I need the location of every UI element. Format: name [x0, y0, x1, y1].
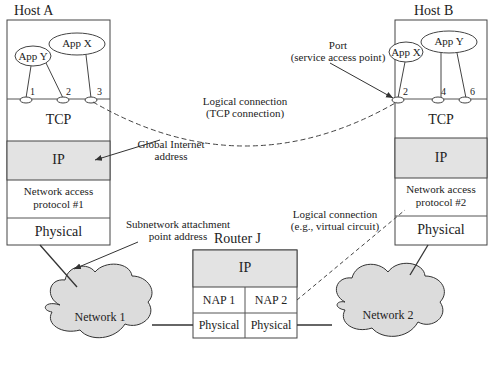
host-b-port-4: 4	[441, 86, 446, 98]
host-b-app-y-label: App Y	[429, 35, 469, 48]
host-a-port-1: 1	[30, 86, 35, 98]
network-1-label: Network 1	[70, 311, 130, 325]
router-nap1: NAP 1	[193, 294, 245, 308]
host-a-tcp-layer: TCP	[7, 112, 110, 128]
tcp-connection-label-line2: (TCP connection)	[195, 107, 295, 120]
network-1-cloud	[45, 264, 152, 338]
host-a-nap-line2: protocol #1	[7, 198, 110, 211]
host-b-port-2: 2	[403, 86, 408, 98]
vc-connection-line1: Logical connection	[280, 208, 390, 221]
tcp-connection-label-line1: Logical connection	[195, 95, 295, 108]
host-b-port-6: 6	[470, 86, 475, 98]
router-physical-1: Physical	[193, 319, 245, 333]
port-annotation-line2: (service access point)	[280, 51, 396, 64]
port-icon	[459, 97, 471, 103]
router-ip-layer: IP	[193, 260, 297, 276]
host-b-ip-layer: IP	[395, 150, 487, 166]
port-icon	[57, 97, 69, 103]
network-2-cloud	[336, 263, 444, 336]
host-a-port-2: 2	[66, 86, 71, 98]
host-a-nap-line1: Network access	[7, 185, 110, 198]
router-physical-2: Physical	[245, 319, 297, 333]
port-annotation-line1: Port	[280, 39, 396, 52]
host-a-app-y-label: App Y	[18, 50, 48, 63]
network-2-label: Network 2	[358, 309, 418, 323]
router-nap2: NAP 2	[245, 294, 297, 308]
subnet-address-line2: point address	[118, 230, 238, 243]
host-b-tcp-layer: TCP	[395, 112, 487, 128]
host-a-app-x-label: App X	[57, 37, 97, 50]
host-a-port-3: 3	[97, 86, 102, 98]
port-icon	[432, 97, 444, 103]
port-icon	[392, 97, 404, 103]
port-icon	[85, 97, 97, 103]
host-a-physical-layer: Physical	[7, 224, 110, 240]
host-b-title: Host B	[414, 3, 453, 19]
global-address-line1: Global Internet	[126, 138, 216, 151]
host-b-nap-line1: Network access	[395, 183, 487, 196]
port-icon	[20, 97, 32, 103]
host-a-title: Host A	[14, 3, 53, 19]
host-b-physical-layer: Physical	[395, 222, 487, 238]
vc-connection-line2: (e.g., virtual circuit)	[280, 220, 390, 233]
host-a-ip-layer: IP	[7, 152, 110, 168]
subnet-address-line1: Subnetwork attachment	[118, 218, 238, 231]
global-address-line2: address	[126, 150, 216, 163]
host-b-nap-line2: protocol #2	[395, 196, 487, 209]
